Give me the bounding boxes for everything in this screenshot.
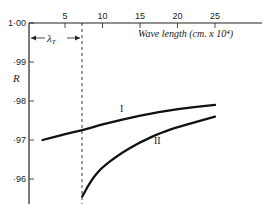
lambda-t-span: λT — [31, 31, 80, 46]
x-axis-label: Wave length (cm. x 10⁴) — [138, 28, 234, 40]
series-line-II — [82, 117, 215, 197]
arrow-left-icon — [31, 36, 36, 41]
series-group: III — [43, 103, 216, 197]
series-label-II: II — [154, 135, 161, 146]
y-tick-label: ·98 — [13, 96, 26, 106]
x-tick-label: 10 — [97, 11, 107, 21]
y-tick-label: ·99 — [13, 57, 26, 67]
x-tick-label: 20 — [172, 11, 182, 21]
series-line-I — [43, 105, 216, 140]
y-tick-label: ·96 — [13, 174, 26, 184]
y-axis-label: R — [12, 72, 20, 84]
x-tick-label: 15 — [135, 11, 145, 21]
series-label-I: I — [120, 103, 123, 114]
y-ticks: 1·00·99·98·97·96 — [8, 18, 34, 184]
x-tick-label: 25 — [210, 11, 220, 21]
x-tick-label: 5 — [62, 11, 67, 21]
y-tick-label: ·97 — [13, 135, 26, 145]
reflectivity-chart: 510152025 1·00·99·98·97·96 Wave length (… — [0, 0, 264, 204]
arrow-right-icon — [75, 36, 80, 41]
y-tick-label: 1·00 — [8, 18, 26, 28]
x-ticks: 510152025 — [62, 11, 220, 28]
